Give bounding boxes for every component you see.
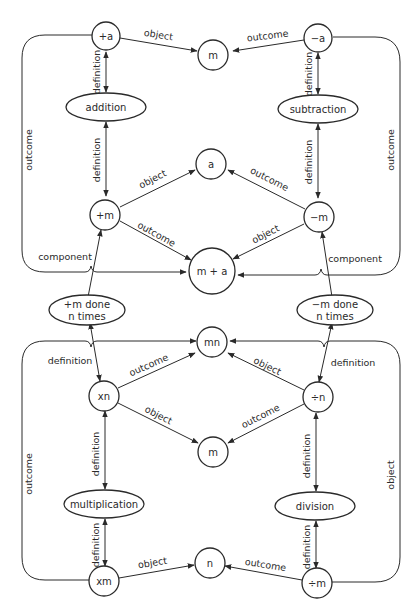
- node-multiplication: multiplication: [64, 490, 144, 518]
- svg-text:m + a: m + a: [197, 266, 228, 277]
- svg-text:multiplication: multiplication: [70, 499, 138, 510]
- svg-text:÷m: ÷m: [308, 578, 326, 589]
- label-subtraction-def: definition: [303, 140, 314, 185]
- svg-text:addition: addition: [86, 102, 127, 113]
- label-minus-m-outcome: outcome: [249, 165, 291, 194]
- label-div-m-def: definition: [301, 525, 312, 570]
- concept-diagram: +a m −a addition subtraction a +m −m m +…: [0, 0, 420, 613]
- node-xn: xn: [89, 381, 119, 411]
- node-minus-m: −m: [304, 202, 334, 232]
- node-addition: addition: [66, 93, 146, 121]
- node-div-n: ÷n: [303, 382, 333, 412]
- node-minus-m-done-n-times: −m done n times: [297, 295, 373, 325]
- node-plus-m: +m: [90, 200, 120, 230]
- svg-text:a: a: [208, 159, 214, 170]
- svg-text:n times: n times: [68, 311, 105, 322]
- svg-text:mn: mn: [204, 337, 220, 348]
- svg-text:m: m: [208, 447, 218, 458]
- node-n: n: [195, 548, 225, 578]
- svg-text:−m: −m: [310, 212, 328, 223]
- node-a: a: [196, 149, 226, 179]
- node-m-top: m: [198, 40, 228, 70]
- node-minus-a: −a: [304, 24, 332, 52]
- svg-text:−m done: −m done: [312, 299, 358, 310]
- label-right-outer-object-lower: object: [385, 460, 396, 490]
- svg-text:subtraction: subtraction: [290, 104, 347, 115]
- label-multiplication-def: definition: [90, 432, 101, 477]
- label-plus-m-outcome: outcome: [136, 219, 178, 249]
- node-mn: mn: [197, 327, 227, 357]
- edge-right-definition-lower: [319, 323, 332, 382]
- svg-text:n times: n times: [316, 311, 353, 322]
- label-right-outer-outcome: outcome: [385, 129, 396, 171]
- label-addition-def: definition: [91, 138, 102, 183]
- label-plus-m-object: object: [137, 167, 168, 190]
- node-m-mid: m: [198, 437, 228, 467]
- svg-text:+m done: +m done: [64, 299, 110, 310]
- node-plus-a: +a: [92, 22, 120, 50]
- label-minus-m-object: object: [250, 222, 281, 245]
- label-minus-a-def: definition: [303, 52, 314, 97]
- svg-text:division: division: [296, 501, 334, 512]
- label-minus-a-outcome: outcome: [246, 28, 289, 44]
- edge-left-definition-lower: [90, 323, 100, 381]
- svg-text:m: m: [208, 50, 218, 61]
- svg-text:xm: xm: [96, 576, 112, 587]
- svg-text:n: n: [207, 558, 213, 569]
- label-plus-a-def: definition: [91, 50, 102, 95]
- label-right-definition-lower: definition: [331, 357, 376, 368]
- node-division: division: [275, 492, 355, 520]
- label-left-outer-outcome: outcome: [23, 129, 34, 171]
- node-subtraction: subtraction: [278, 95, 358, 123]
- edge-left-component: [88, 230, 101, 297]
- label-division-def: definition: [301, 434, 312, 479]
- svg-text:÷n: ÷n: [311, 392, 326, 403]
- label-xm-object: object: [137, 555, 168, 570]
- edge-minus-a-outcome: [233, 40, 304, 51]
- label-plus-a-object: object: [143, 27, 174, 42]
- edge-right-component: [322, 232, 332, 297]
- edge-div-m-object-loop: [230, 341, 400, 582]
- node-m-plus-a: m + a: [189, 248, 235, 294]
- label-right-component: component: [328, 253, 382, 264]
- svg-text:−a: −a: [311, 33, 326, 44]
- node-div-m: ÷m: [302, 568, 332, 598]
- label-xm-def: definition: [90, 523, 101, 568]
- node-plus-m-done-n-times: +m done n times: [49, 295, 125, 325]
- label-div-n-object: object: [252, 354, 283, 377]
- node-xm: xm: [89, 566, 119, 596]
- svg-text:+m: +m: [96, 210, 114, 221]
- svg-text:+a: +a: [99, 31, 114, 42]
- label-left-definition-lower: definition: [48, 355, 93, 366]
- svg-text:xn: xn: [98, 391, 110, 402]
- label-left-component: component: [38, 251, 92, 262]
- label-left-outer-outcome-lower: outcome: [23, 453, 34, 495]
- edge-xm-outcome-loop: [22, 341, 196, 580]
